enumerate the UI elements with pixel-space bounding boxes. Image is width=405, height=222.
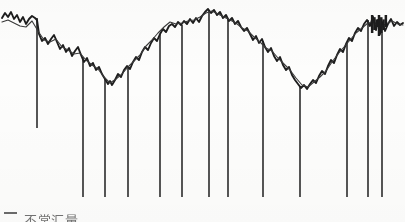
legend-line-marker-icon (4, 212, 17, 214)
legend-item-label: 不常汇量 (24, 214, 78, 222)
plot-area (0, 0, 405, 205)
chart-figure: 不常汇量 (0, 0, 405, 222)
legend-item: 不常汇量 (0, 203, 78, 222)
dense-ink-group (372, 15, 386, 36)
event-spike-group (37, 10, 382, 197)
series-group (2, 9, 403, 89)
chart-canvas (0, 0, 405, 205)
series-line (2, 11, 403, 87)
legend: 不常汇量 (0, 203, 405, 222)
